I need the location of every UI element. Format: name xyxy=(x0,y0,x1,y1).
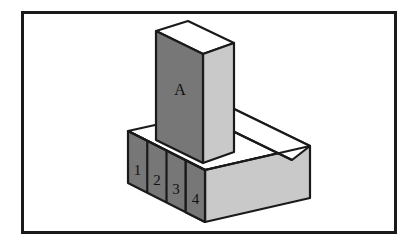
base-cell-label-4-overlap: 4 xyxy=(192,191,200,207)
base-cell-label-3: 3 xyxy=(172,181,180,197)
tower-right-face xyxy=(203,43,234,163)
vertical-tower-block: A xyxy=(156,21,234,163)
base-cell-label-2: 2 xyxy=(153,172,161,188)
figure-root: 1 2 3 4 A xyxy=(0,0,418,249)
tower-label-a: A xyxy=(174,81,186,98)
isometric-block-figure: 1 2 3 4 A xyxy=(0,0,418,249)
base-cell-label-1: 1 xyxy=(134,162,142,178)
